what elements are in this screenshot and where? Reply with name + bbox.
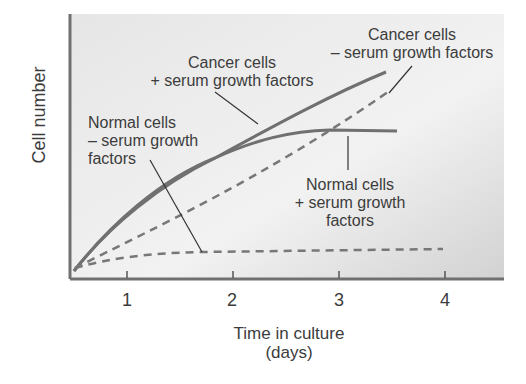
svg-text:1: 1 bbox=[122, 290, 132, 310]
x-tick-labels: 1 2 3 4 bbox=[122, 290, 450, 310]
svg-text:Cancer cells: Cancer cells bbox=[368, 26, 456, 43]
y-axis-title: Cell number bbox=[29, 66, 49, 163]
svg-text:4: 4 bbox=[440, 290, 450, 310]
svg-text:(days): (days) bbox=[265, 343, 312, 362]
svg-text:factors: factors bbox=[88, 150, 136, 167]
svg-text:– serum growth: – serum growth bbox=[88, 132, 198, 149]
svg-text:Cancer cells: Cancer cells bbox=[188, 54, 276, 71]
svg-text:Time in culture: Time in culture bbox=[234, 324, 345, 343]
svg-text:+ serum growth factors: + serum growth factors bbox=[150, 72, 313, 89]
chart: 1 2 3 4 Time in culture (days) Cell numb… bbox=[0, 0, 526, 384]
svg-text:– serum growth factors: – serum growth factors bbox=[331, 44, 494, 61]
svg-text:Normal cells: Normal cells bbox=[88, 114, 176, 131]
x-axis-title: Time in culture (days) bbox=[234, 324, 345, 362]
svg-text:3: 3 bbox=[334, 290, 344, 310]
svg-text:Normal cells: Normal cells bbox=[306, 176, 394, 193]
svg-text:+ serum growth: + serum growth bbox=[295, 194, 406, 211]
svg-text:factors: factors bbox=[326, 212, 374, 229]
svg-text:2: 2 bbox=[227, 290, 237, 310]
